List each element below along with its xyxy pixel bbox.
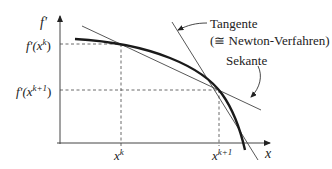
diagram-canvas: f' f'(xk) f'(xk+1) xk xk+1 x Tangente (≅… bbox=[0, 0, 332, 169]
x-tick-label-xk1: xk+1 bbox=[211, 147, 232, 163]
tangent-sublabel: (≅ Newton-Verfahren) bbox=[210, 33, 330, 48]
x-tick-label-xk: xk bbox=[113, 147, 125, 163]
x-axis-label: x bbox=[264, 146, 272, 161]
function-curve bbox=[75, 39, 245, 150]
y-tick-label-xk: f'(xk) bbox=[26, 37, 51, 53]
tangent-pointer-arrow bbox=[178, 23, 207, 30]
y-tick-label-xk1: f'(xk+1) bbox=[16, 83, 51, 99]
y-axis-label: f' bbox=[40, 15, 48, 30]
secant-pointer-arrow bbox=[251, 66, 260, 97]
secant-label: Sekante bbox=[226, 53, 267, 68]
tangent-label: Tangente bbox=[210, 16, 258, 31]
